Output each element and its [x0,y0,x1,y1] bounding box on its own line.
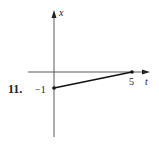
x-axis-arrow-icon [52,10,57,18]
tick-label-neg1: −1 [35,84,46,95]
line-segment [54,72,132,88]
problem-number: 11. [8,82,22,96]
point-0-neg1 [52,86,56,90]
tick-label-5: 5 [129,76,134,87]
t-axis-label: t [145,76,148,87]
graph: 11. −1 5 t x [0,0,159,146]
point-5-0 [130,70,134,74]
t-axis-arrow-icon [142,70,150,75]
x-axis-label: x [58,7,64,18]
